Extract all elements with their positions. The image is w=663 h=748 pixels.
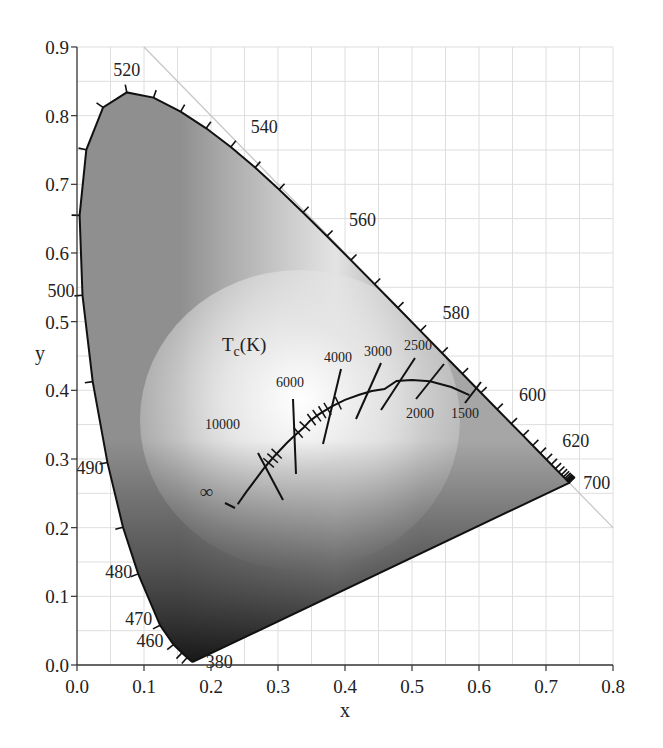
x-tick-label: 0.5 xyxy=(400,676,424,697)
isotherm-label-6000: 6000 xyxy=(276,375,304,390)
wavelength-tick xyxy=(559,466,565,472)
y-tick-label: 0.4 xyxy=(45,380,69,401)
wavelength-tick xyxy=(442,347,448,353)
x-tick-label: 0.2 xyxy=(199,676,223,697)
wavelength-label-560: 560 xyxy=(349,210,376,230)
wavelength-tick xyxy=(375,278,381,284)
y-tick-label: 0.0 xyxy=(45,655,69,676)
wavelength-label-460: 460 xyxy=(136,631,163,651)
x-tick-label: 0.4 xyxy=(333,676,357,697)
isotherm-label-2500: 2500 xyxy=(404,338,432,353)
isotherm-label-4000: 4000 xyxy=(324,350,352,365)
y-tick-label: 0.5 xyxy=(45,312,69,333)
cie-chromaticity-chart: 380460470480490500520540560580600620700 … xyxy=(0,0,663,748)
x-tick-label: 0.3 xyxy=(266,676,290,697)
wavelength-tick xyxy=(75,295,83,296)
wavelength-label-540: 540 xyxy=(251,117,278,137)
wavelength-tick xyxy=(206,122,211,129)
x-axis-title: x xyxy=(340,699,350,721)
wavelength-tick xyxy=(125,85,127,93)
x-axis-ticks: 0.00.10.20.30.40.50.60.70.8 xyxy=(65,665,625,697)
wavelength-tick xyxy=(555,463,561,469)
wavelength-tick xyxy=(462,368,468,374)
wavelength-tick xyxy=(327,230,333,236)
wavelength-tick xyxy=(398,302,404,308)
wavelength-tick xyxy=(351,254,357,260)
wavelength-label-500: 500 xyxy=(47,281,74,301)
wavelength-tick xyxy=(523,430,529,436)
isotherm-label-10000: 10000 xyxy=(205,417,240,432)
wavelength-tick xyxy=(540,448,546,454)
y-tick-label: 0.9 xyxy=(45,37,69,58)
wavelength-tick xyxy=(182,658,187,664)
wavelength-label-490: 490 xyxy=(76,458,103,478)
wavelength-label-480: 480 xyxy=(105,562,132,582)
y-tick-label: 0.7 xyxy=(45,174,69,195)
wavelength-label-600: 600 xyxy=(519,385,546,405)
y-axis-ticks: 0.00.10.20.30.40.50.60.70.80.9 xyxy=(45,37,77,676)
wavelength-label-380: 380 xyxy=(206,652,233,672)
wavelength-label-470: 470 xyxy=(125,609,152,629)
wavelength-tick xyxy=(497,404,503,410)
wavelength-label-580: 580 xyxy=(442,303,469,323)
wavelength-label-520: 520 xyxy=(113,60,140,80)
wavelength-tick xyxy=(154,90,157,98)
isotherm-label-3000: 3000 xyxy=(364,344,392,359)
wavelength-tick xyxy=(420,325,426,331)
wavelength-tick xyxy=(153,625,160,629)
y-tick-label: 0.3 xyxy=(45,449,69,470)
y-tick-label: 0.1 xyxy=(45,586,69,607)
wavelength-tick xyxy=(181,105,185,112)
wavelength-tick xyxy=(303,207,309,213)
gamut-fill xyxy=(0,0,663,748)
wavelength-label-700: 700 xyxy=(583,473,610,493)
y-tick-label: 0.8 xyxy=(45,106,69,127)
wavelength-tick xyxy=(533,440,539,446)
x-tick-label: 0.6 xyxy=(467,676,491,697)
y-tick-label: 0.2 xyxy=(45,518,69,539)
isotherm-label-1500: 1500 xyxy=(451,406,479,421)
y-tick-label: 0.6 xyxy=(45,243,69,264)
wavelength-tick xyxy=(167,645,173,650)
x-tick-label: 0.1 xyxy=(132,676,156,697)
x-tick-label: 0.0 xyxy=(65,676,89,697)
x-tick-label: 0.7 xyxy=(534,676,558,697)
wavelength-tick xyxy=(97,103,104,108)
y-axis-title: y xyxy=(35,342,45,365)
wavelength-tick xyxy=(231,141,236,147)
isotherm-label-infinity: ∞ xyxy=(199,481,213,502)
wavelength-tick xyxy=(551,459,557,465)
wavelength-tick xyxy=(85,382,93,383)
isotherm-label-2000: 2000 xyxy=(406,406,434,421)
wavelength-label-620: 620 xyxy=(562,431,589,451)
x-tick-label: 0.8 xyxy=(601,676,625,697)
